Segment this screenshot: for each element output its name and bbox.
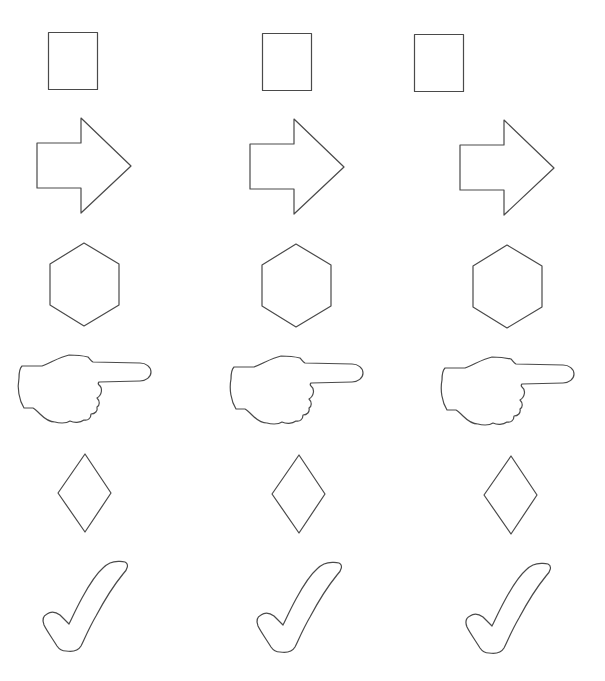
column-2: [230, 34, 363, 653]
arrow-right-icon: [250, 119, 344, 214]
hexagon-icon: [262, 244, 331, 327]
pointing-hand-icon: [18, 355, 151, 423]
arrow-right-icon: [460, 120, 554, 215]
square-icon: [49, 33, 98, 90]
diamond-icon: [58, 454, 111, 532]
checkmark-icon: [257, 562, 341, 652]
column-1: [18, 33, 151, 652]
arrow-right-icon: [37, 118, 131, 213]
pointing-hand-icon: [230, 356, 363, 424]
hexagon-icon: [473, 245, 542, 328]
diamond-icon: [272, 455, 325, 533]
square-icon: [415, 35, 464, 92]
hexagon-icon: [50, 243, 119, 326]
checkmark-icon: [43, 561, 127, 651]
pointing-hand-icon: [441, 357, 574, 425]
column-3: [415, 35, 575, 654]
shape-grid: [0, 0, 605, 681]
checkmark-icon: [466, 563, 550, 653]
square-icon: [263, 34, 312, 91]
diamond-icon: [484, 456, 537, 534]
